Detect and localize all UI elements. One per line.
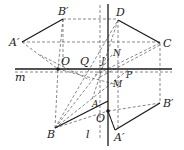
label-p: P [125,70,133,80]
label-a-prime-bottom: A′ [113,131,125,144]
label-b-prime-bottom: B′ [162,97,174,110]
point-o-left [56,67,60,71]
label-d: D [115,6,125,19]
point-o-lower [106,109,110,113]
label-b: B [46,128,55,141]
segment-dc [118,20,160,43]
label-l-axis: l [86,128,90,141]
label-q: Q [80,55,89,68]
label-a: A [91,99,99,109]
label-o-lower: O [96,112,105,125]
segment-o-a-prime-bottom [108,111,115,130]
label-c: C [163,37,172,50]
label-m-axis: m [15,71,25,84]
label-a-prime-top: A′ [8,36,20,49]
segment-a-prime-b-prime-bottom [115,103,160,130]
label-b-prime-top: B′ [57,5,69,18]
geometry-diagram: A′ B′ D C O Q N J P M m A O B l A′ B′ [0,0,184,150]
label-n: N [112,48,122,58]
label-m-point: M [112,79,123,89]
label-o-left: O [61,55,70,68]
segment-a-prime-b-prime-top [22,19,63,42]
construction-lines [15,5,172,140]
